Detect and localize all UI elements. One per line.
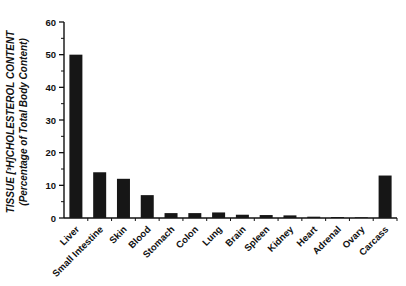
bar-chart-svg: TISSUE [³H]CHOLESTEROL CONTENT (Percenta… — [0, 0, 406, 286]
bar-heart — [307, 217, 320, 218]
y-tick-label-0: 0 — [51, 213, 56, 224]
y-tick-label-20: 20 — [45, 147, 56, 158]
y-tick-label-60: 60 — [45, 17, 56, 28]
bar-skin — [117, 179, 130, 218]
bar-colon — [188, 213, 201, 218]
bar-adrenal — [331, 217, 344, 218]
x-label-colon: Colon — [173, 224, 200, 251]
bar-spleen — [260, 215, 273, 218]
x-label-lung: Lung — [200, 224, 224, 248]
x-label-kidney: Kidney — [265, 223, 296, 254]
bar-ovary — [355, 217, 368, 218]
bar-blood — [141, 195, 154, 218]
plot-area: 0102030405060LiverSmall IntestineSkinBlo… — [45, 17, 397, 279]
bar-stomach — [165, 213, 178, 218]
y-tick-label-50: 50 — [45, 49, 56, 60]
y-tick-label-30: 30 — [45, 115, 56, 126]
bar-lung — [212, 212, 225, 218]
y-tick-label-10: 10 — [45, 180, 56, 191]
tissue-cholesterol-bar-chart: TISSUE [³H]CHOLESTEROL CONTENT (Percenta… — [0, 0, 406, 286]
bar-brain — [236, 215, 249, 218]
bar-liver — [69, 55, 82, 218]
bar-small-intestine — [93, 172, 106, 218]
bar-kidney — [283, 215, 296, 218]
bar-carcass — [379, 176, 392, 218]
y-axis-title-line1: TISSUE [³H]CHOLESTEROL CONTENT — [5, 30, 16, 213]
y-axis-title-line2: (Percentage of Total Body Content) — [18, 38, 29, 206]
y-tick-label-40: 40 — [45, 82, 56, 93]
